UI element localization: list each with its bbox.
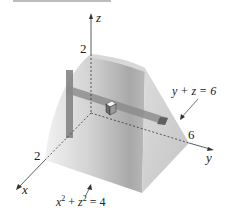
z-axis-label: z bbox=[96, 11, 101, 24]
y-axis-label: y bbox=[206, 151, 212, 164]
vertical-strip bbox=[66, 70, 73, 138]
figure: z 2 y 6 x 2 y + z = 6 x2 + z2 = 4 bbox=[0, 0, 227, 216]
z-axis-arrow-icon bbox=[89, 13, 93, 19]
x-tick-label: 2 bbox=[34, 149, 41, 162]
cylinder-equation: x2 + z2 = 4 bbox=[56, 196, 106, 208]
y-tick-label: 6 bbox=[188, 128, 195, 141]
x-axis bbox=[16, 160, 45, 190]
plane-equation: y + z = 6 bbox=[172, 85, 216, 97]
solid-diagram bbox=[0, 0, 227, 216]
volume-element bbox=[106, 101, 116, 115]
z-axis bbox=[89, 13, 93, 54]
z-tick-label: 2 bbox=[80, 42, 87, 55]
plane-pointer bbox=[180, 99, 198, 120]
x-axis-label: x bbox=[22, 183, 28, 196]
cylinder-face bbox=[45, 54, 145, 193]
